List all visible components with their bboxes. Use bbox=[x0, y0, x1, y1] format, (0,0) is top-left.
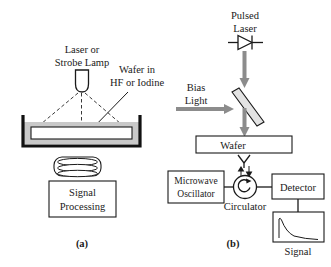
illumination-ray-right bbox=[85, 93, 121, 124]
pulsed-laser-label-line2: Laser bbox=[233, 23, 257, 34]
laser-diode-symbol bbox=[228, 36, 263, 50]
panel-a: Laser or Strobe Lamp Wafer in HF or Iodi… bbox=[23, 44, 164, 250]
illumination-ray-left bbox=[41, 93, 78, 124]
wafer-solution-label-line1: Wafer in bbox=[119, 64, 156, 75]
panel-a-caption: (a) bbox=[76, 238, 89, 250]
microwave-oscillator-label-line1: Microwave bbox=[174, 176, 217, 186]
panel-b-caption: (b) bbox=[227, 238, 240, 250]
detector-label: Detector bbox=[280, 182, 317, 193]
camera-detector-icon bbox=[54, 157, 101, 177]
laser-strobe-lamp-label-line1: Laser or bbox=[65, 44, 100, 55]
circulator-circle bbox=[234, 176, 257, 199]
circulator-label: Circulator bbox=[224, 201, 267, 212]
bias-light-label-line2: Light bbox=[185, 95, 208, 106]
wafer-label: Wafer bbox=[220, 140, 246, 151]
bias-light-label-line1: Bias bbox=[187, 82, 206, 93]
laser-strobe-lamp-icon bbox=[76, 70, 89, 92]
laser-beam bbox=[240, 51, 250, 88]
wafer-solution-label-line2: HF or Iodine bbox=[110, 77, 165, 88]
antenna-icon bbox=[238, 155, 250, 168]
beam-splitter bbox=[232, 88, 264, 126]
pulsed-laser-label-line1: Pulsed bbox=[231, 10, 260, 21]
schematic-diagram: Laser or Strobe Lamp Wafer in HF or Iodi… bbox=[0, 0, 331, 267]
signal-label: Signal bbox=[285, 246, 312, 257]
microwave-oscillator-label-line2: Oscillator bbox=[177, 189, 215, 199]
figure-root: Laser or Strobe Lamp Wafer in HF or Iodi… bbox=[0, 0, 331, 267]
signal-processing-label-line1: Signal bbox=[69, 187, 96, 198]
signal-processing-label-line2: Processing bbox=[60, 201, 106, 212]
laser-strobe-lamp-label-line2: Strobe Lamp bbox=[55, 57, 110, 68]
wafer-in-solution bbox=[31, 127, 132, 139]
panel-b: Pulsed Laser Bias Light bbox=[168, 10, 324, 257]
